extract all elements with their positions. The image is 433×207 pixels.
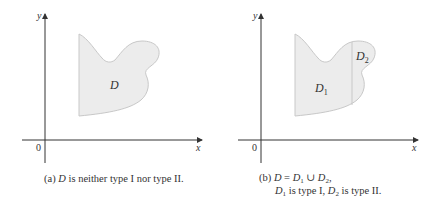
caption-text: = (281, 172, 292, 183)
x-axis-label: x (411, 142, 417, 153)
caption-var: D (275, 185, 283, 196)
region-d (295, 34, 375, 116)
caption-a: (a) D is neither type I nor type II. (44, 172, 184, 185)
caption-b-line2: D1 is type I, D2 is type II. (275, 184, 381, 201)
caption-text: , (329, 172, 332, 183)
caption-prefix: (a) (44, 173, 58, 184)
caption-text: is type I, (286, 185, 328, 196)
caption-var: D (58, 173, 66, 184)
panel-a: y x 0 D (22, 10, 202, 163)
caption-text: is type II. (339, 185, 382, 196)
x-axis-label: x (195, 142, 201, 153)
caption-prefix: (b) (259, 172, 274, 183)
origin-label: 0 (252, 142, 257, 153)
region-label: D (109, 78, 119, 92)
region-d (79, 34, 159, 116)
caption-text: is neither type I nor type II. (66, 173, 184, 184)
origin-label: 0 (36, 142, 41, 153)
y-axis-label: y (252, 10, 258, 21)
caption-text: ∪ (304, 172, 318, 183)
panel-b: y x 0 D1 D2 (238, 10, 418, 163)
y-axis-label: y (36, 10, 42, 21)
